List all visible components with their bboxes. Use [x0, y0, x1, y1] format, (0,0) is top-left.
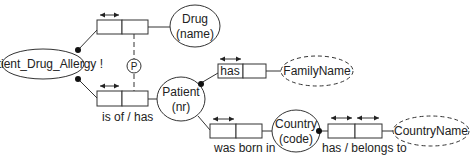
value-label: CountryName: [394, 124, 468, 138]
mandatory-dot-icon: [75, 47, 81, 53]
fact-type-reading: was born in: [213, 141, 275, 155]
value-type-familyname[interactable]: FamilyName: [281, 56, 353, 86]
value-type-countryname[interactable]: CountryName: [393, 116, 469, 146]
subset-constraint[interactable]: P: [127, 59, 141, 73]
fact-type-reading: is of / has: [102, 110, 153, 124]
fact-type-reading: has: [220, 64, 239, 78]
entity-ref-mode: (name): [176, 27, 214, 41]
entity-ref-mode: (nr): [172, 100, 191, 114]
entity-ref-mode: (code): [279, 132, 313, 146]
fact-type-reading: has / belongs to: [322, 141, 407, 155]
mandatory-dot-icon: [316, 128, 322, 134]
constraint-label: P: [131, 61, 138, 72]
orm-diagram: Patient_Drug_Allergy ! Drug (name) P is …: [0, 0, 471, 161]
fact-type-patient-familyname[interactable]: has: [218, 59, 266, 78]
entity-country[interactable]: Country (code): [272, 110, 320, 152]
entity-patient-drug-allergy[interactable]: Patient_Drug_Allergy !: [0, 49, 103, 79]
value-label: FamilyName: [283, 64, 351, 78]
entity-label: Patient_Drug_Allergy !: [0, 57, 103, 71]
mandatory-dot-icon: [75, 76, 81, 82]
entity-label: Drug: [182, 12, 208, 26]
entity-drug[interactable]: Drug (name): [170, 5, 220, 47]
entity-label: Patient: [162, 85, 200, 99]
entity-label: Country: [275, 117, 317, 131]
mandatory-dot-icon: [198, 81, 204, 87]
fact-type-allergy-drug[interactable]: [97, 15, 148, 34]
fact-type-patient-born-in[interactable]: was born in: [210, 119, 275, 155]
fact-type-allergy-patient[interactable]: is of / has: [97, 86, 153, 124]
entity-patient[interactable]: Patient (nr): [157, 77, 205, 121]
